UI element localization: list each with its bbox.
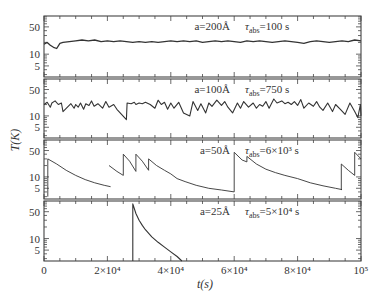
- y-tick-label: 5: [35, 60, 41, 72]
- data-line: [48, 159, 111, 197]
- data-line: [341, 152, 361, 175]
- panel-annotation-tau: τabs=6×10³ s: [245, 144, 299, 159]
- y-tick-label: 10: [29, 48, 41, 60]
- y-tick-label: 50: [29, 145, 41, 157]
- chart: 51050a=200Åτabs=100 s51050a=100Åτabs=750…: [0, 0, 377, 298]
- panel-2: 51050a=100Åτabs=750 s: [29, 79, 361, 138]
- y-tick-label: 50: [29, 21, 41, 33]
- y-tick-label: 10: [29, 171, 41, 183]
- panel-4: 51050a=25Åτabs=5×10⁴ s: [29, 201, 361, 261]
- y-tick-label: 50: [29, 84, 41, 96]
- x-tick-label: 10⁵: [354, 264, 369, 276]
- y-tick-label: 50: [29, 206, 41, 218]
- x-tick-labels: 02×10⁴4×10⁴6×10⁴8×10⁴10⁵: [41, 264, 368, 276]
- y-tick-label: 10: [29, 233, 41, 245]
- y-tick-label: 5: [35, 121, 41, 133]
- y-axis-label: T(K): [8, 129, 22, 152]
- data-line: [44, 99, 361, 120]
- panels: 51050a=200Åτabs=100 s51050a=100Åτabs=750…: [29, 16, 361, 261]
- data-line: [109, 152, 234, 192]
- x-tick-label: 2×10⁴: [94, 264, 121, 276]
- x-tick-label: 0: [41, 264, 47, 276]
- data-line: [133, 204, 182, 261]
- panel-annotation-a: a=50Å: [200, 144, 230, 156]
- x-axis-label: t(s): [197, 277, 213, 291]
- panel-annotation-a: a=100Å: [194, 83, 230, 95]
- y-tick-label: 10: [29, 110, 41, 122]
- y-tick-label: 5: [35, 244, 41, 256]
- x-tick-label: 4×10⁴: [158, 264, 185, 276]
- data-line: [44, 40, 361, 49]
- x-tick-label: 8×10⁴: [284, 264, 311, 276]
- x-tick-label: 6×10⁴: [221, 264, 248, 276]
- y-tick-label: 5: [35, 182, 41, 194]
- panel-annotation-a: a=25Å: [200, 205, 230, 217]
- panel-annotation-tau: τabs=750 s: [245, 83, 289, 98]
- panel-annotation-tau: τabs=5×10⁴ s: [245, 205, 299, 220]
- panel-annotation-tau: τabs=100 s: [245, 20, 289, 35]
- panel-annotation-a: a=200Å: [194, 20, 230, 32]
- panel-3: 51050a=50Åτabs=6×10³ s: [29, 140, 361, 199]
- panel-1: 51050a=200Åτabs=100 s: [29, 16, 361, 77]
